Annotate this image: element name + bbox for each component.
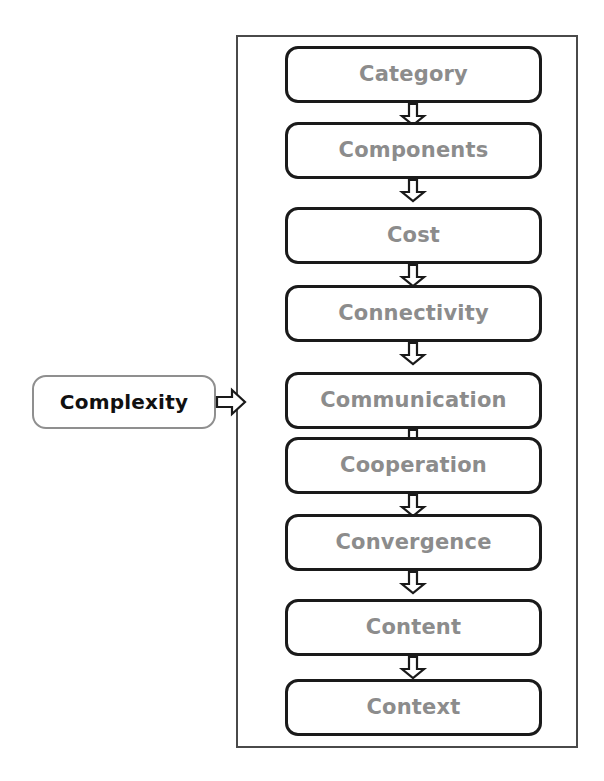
block-arrow-right-icon <box>216 388 246 416</box>
block-arrow-down-icon-2 <box>399 180 427 202</box>
node-label-cost: Cost <box>387 225 440 246</box>
node-label-content: Content <box>366 617 461 638</box>
node-category[interactable]: Category <box>285 46 542 103</box>
diagram-canvas: Complexity Category Components Cost Conn… <box>0 0 604 781</box>
block-arrow-down-icon-8 <box>399 657 427 679</box>
node-communication[interactable]: Communication <box>285 372 542 429</box>
node-components[interactable]: Components <box>285 122 542 179</box>
node-label-convergence: Convergence <box>335 532 491 553</box>
node-label-components: Components <box>339 140 489 161</box>
block-arrow-down-icon-7 <box>399 572 427 594</box>
node-content[interactable]: Content <box>285 599 542 656</box>
block-arrow-down-icon-3 <box>399 265 427 287</box>
node-label-cooperation: Cooperation <box>340 455 487 476</box>
node-convergence[interactable]: Convergence <box>285 514 542 571</box>
block-arrow-down-icon-4 <box>399 343 427 365</box>
node-cooperation[interactable]: Cooperation <box>285 437 542 494</box>
node-cost[interactable]: Cost <box>285 207 542 264</box>
node-connectivity[interactable]: Connectivity <box>285 285 542 342</box>
node-context[interactable]: Context <box>285 679 542 736</box>
node-label-complexity: Complexity <box>60 392 188 412</box>
node-label-category: Category <box>359 64 468 85</box>
node-label-connectivity: Connectivity <box>338 303 489 324</box>
node-label-communication: Communication <box>320 390 507 411</box>
node-complexity[interactable]: Complexity <box>32 375 216 429</box>
node-label-context: Context <box>366 697 460 718</box>
